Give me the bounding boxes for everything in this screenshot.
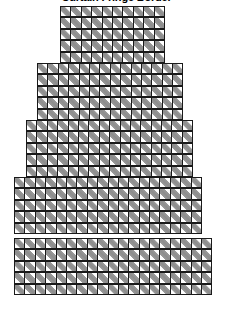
pattern-cell[interactable] bbox=[182, 143, 193, 154]
pattern-row bbox=[26, 120, 192, 131]
pattern-cell[interactable] bbox=[172, 109, 183, 120]
pattern-cell[interactable] bbox=[154, 52, 165, 63]
pattern-row bbox=[37, 97, 182, 108]
pattern-row bbox=[60, 40, 164, 51]
pattern-cell[interactable] bbox=[154, 6, 165, 17]
pattern-row bbox=[14, 211, 201, 222]
pattern-cell[interactable] bbox=[154, 29, 165, 40]
pattern-cell[interactable] bbox=[172, 63, 183, 74]
pattern-cell[interactable] bbox=[172, 97, 183, 108]
pattern-row bbox=[14, 223, 201, 234]
pattern-row bbox=[14, 272, 211, 283]
pattern-cell[interactable] bbox=[182, 131, 193, 142]
pattern-cell[interactable] bbox=[191, 223, 202, 234]
pattern-row bbox=[37, 63, 182, 74]
pattern-cell[interactable] bbox=[201, 249, 212, 260]
pattern-row bbox=[37, 86, 182, 97]
pattern-row bbox=[26, 131, 192, 142]
pattern-row bbox=[60, 17, 164, 28]
tier-1-top bbox=[60, 6, 164, 63]
pattern-cell[interactable] bbox=[201, 284, 212, 295]
pattern-row bbox=[60, 6, 164, 17]
pattern-cell[interactable] bbox=[191, 211, 202, 222]
pattern-row bbox=[26, 154, 192, 165]
pattern-cell[interactable] bbox=[201, 238, 212, 249]
pattern-cell[interactable] bbox=[172, 74, 183, 85]
pattern-row bbox=[26, 166, 192, 177]
pattern-row bbox=[37, 109, 182, 120]
pattern-cell[interactable] bbox=[191, 188, 202, 199]
pattern-row bbox=[14, 200, 201, 211]
tier-2 bbox=[37, 63, 182, 120]
tier-5-bottom bbox=[14, 238, 211, 295]
pattern-cell[interactable] bbox=[172, 86, 183, 97]
pattern-row bbox=[60, 52, 164, 63]
pattern-row bbox=[26, 143, 192, 154]
pattern-row bbox=[37, 74, 182, 85]
pattern-cell[interactable] bbox=[191, 200, 202, 211]
tier-4 bbox=[14, 177, 201, 234]
pattern-cell[interactable] bbox=[154, 17, 165, 28]
pattern-row bbox=[14, 177, 201, 188]
pattern-row bbox=[14, 188, 201, 199]
pattern-cell[interactable] bbox=[201, 261, 212, 272]
pattern-cell[interactable] bbox=[182, 154, 193, 165]
pattern-chart-canvas bbox=[0, 0, 233, 311]
pattern-cell[interactable] bbox=[182, 120, 193, 131]
pattern-cell[interactable] bbox=[191, 177, 202, 188]
tier-3 bbox=[26, 120, 192, 177]
pattern-cell[interactable] bbox=[201, 272, 212, 283]
pattern-cell[interactable] bbox=[182, 166, 193, 177]
pattern-row bbox=[60, 29, 164, 40]
pattern-row bbox=[14, 284, 211, 295]
pattern-cell[interactable] bbox=[154, 40, 165, 51]
pattern-row bbox=[14, 238, 211, 249]
pattern-row bbox=[14, 261, 211, 272]
pattern-row bbox=[14, 249, 211, 260]
